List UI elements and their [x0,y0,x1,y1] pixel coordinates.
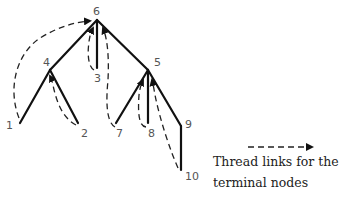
node-label-8: 8 [148,127,155,140]
node-label-3: 3 [94,72,101,85]
edge-4-1 [20,70,50,123]
node-label-2: 2 [81,127,88,140]
legend-line-2: terminal nodes [213,175,308,190]
edge-6-5 [97,20,148,70]
tree-edges [20,20,181,170]
thread-3-to-6 [88,28,94,70]
node-label-9: 9 [185,118,192,131]
thread-10-to-5 [152,80,178,168]
node-label-6: 6 [93,5,100,18]
thread-2-to-4 [50,76,76,125]
edge-5-7 [116,70,148,123]
node-labels: 6 4 5 3 1 2 7 8 9 10 [6,5,199,183]
thread-8-to-5 [139,80,146,127]
legend: Thread links for the terminal nodes [213,147,339,190]
edge-6-4 [50,20,97,70]
node-label-4: 4 [43,56,50,69]
edge-5-9 [148,70,181,126]
thread-7-to-6 [103,28,115,127]
node-label-1: 1 [6,119,13,132]
node-label-10: 10 [185,170,199,183]
legend-line-1: Thread links for the [213,154,339,169]
threaded-tree-diagram: 6 4 5 3 1 2 7 8 9 10 Thread links for th… [0,0,346,203]
node-label-5: 5 [154,56,161,69]
node-label-7: 7 [116,127,123,140]
